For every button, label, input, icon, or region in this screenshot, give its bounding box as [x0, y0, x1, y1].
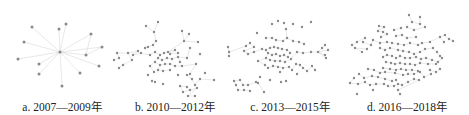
node [132, 54, 134, 56]
node [419, 62, 421, 64]
node [285, 28, 287, 30]
node [321, 47, 323, 49]
node [38, 63, 41, 66]
node [195, 63, 197, 65]
node [189, 47, 191, 49]
node [375, 83, 377, 85]
node [253, 46, 255, 48]
node [249, 42, 251, 44]
node [233, 80, 235, 82]
edge [410, 43, 418, 45]
node [358, 73, 360, 75]
node [427, 63, 429, 65]
node [159, 54, 161, 56]
node [400, 27, 402, 29]
node [386, 54, 388, 56]
node [444, 34, 446, 36]
node [382, 31, 384, 33]
edges-group [18, 24, 102, 86]
node [191, 78, 193, 80]
node [239, 79, 241, 81]
node [199, 78, 201, 80]
node [194, 84, 196, 86]
node [157, 69, 159, 71]
node [154, 81, 156, 83]
node [58, 28, 61, 31]
node [420, 58, 422, 60]
edge [422, 42, 430, 43]
node [310, 21, 312, 23]
node [431, 59, 433, 61]
edge [254, 49, 262, 52]
node [277, 66, 279, 68]
node [406, 37, 408, 39]
node [280, 81, 282, 83]
node [378, 25, 380, 27]
node [366, 48, 368, 50]
node [181, 30, 183, 32]
node [213, 79, 215, 81]
edge [258, 58, 266, 61]
caption-panel-d: d. 2016—2018年 [347, 98, 467, 114]
node [393, 85, 395, 87]
node [324, 54, 326, 56]
node [384, 78, 386, 80]
node [390, 62, 392, 64]
node [425, 57, 427, 59]
edge [141, 53, 150, 55]
node [386, 33, 388, 35]
node [283, 54, 285, 56]
node [419, 23, 421, 25]
caption-panel-c: c. 2013—2015年 [230, 98, 350, 114]
network-graph-panel-a [17, 23, 104, 88]
node [227, 46, 229, 48]
node [299, 64, 301, 66]
node [409, 57, 411, 59]
node [273, 46, 275, 48]
node [314, 69, 316, 71]
node [174, 65, 176, 67]
node [267, 52, 269, 54]
node [356, 93, 358, 95]
node [389, 47, 391, 49]
node [423, 76, 425, 78]
network-evolution-figure: a. 2007—2009年 b. 2010—2012年 c. 2013—2015… [0, 0, 469, 115]
edge [184, 41, 198, 42]
edge [60, 24, 66, 52]
node [257, 60, 259, 62]
node [245, 45, 247, 47]
node [391, 80, 393, 82]
node [256, 32, 258, 34]
edge [154, 22, 158, 32]
node [157, 21, 159, 23]
node [161, 59, 163, 61]
edge [123, 60, 132, 65]
node [402, 50, 404, 52]
node [395, 35, 397, 37]
node [394, 72, 396, 74]
node [122, 64, 124, 66]
edge [182, 31, 184, 41]
node [400, 68, 402, 70]
node [101, 46, 104, 49]
node [389, 68, 391, 70]
node [435, 71, 437, 73]
edge [182, 64, 196, 66]
edge [190, 64, 196, 74]
node [371, 75, 373, 77]
node [145, 25, 147, 27]
node [395, 79, 397, 81]
node [393, 29, 395, 31]
node [362, 41, 364, 43]
edge [60, 47, 102, 52]
node [372, 89, 374, 91]
node [292, 40, 294, 42]
node [167, 51, 169, 53]
node [187, 95, 189, 97]
node [137, 50, 139, 52]
node [188, 33, 190, 35]
node [157, 57, 159, 59]
node [439, 55, 441, 57]
node [356, 41, 358, 43]
node [65, 23, 68, 26]
